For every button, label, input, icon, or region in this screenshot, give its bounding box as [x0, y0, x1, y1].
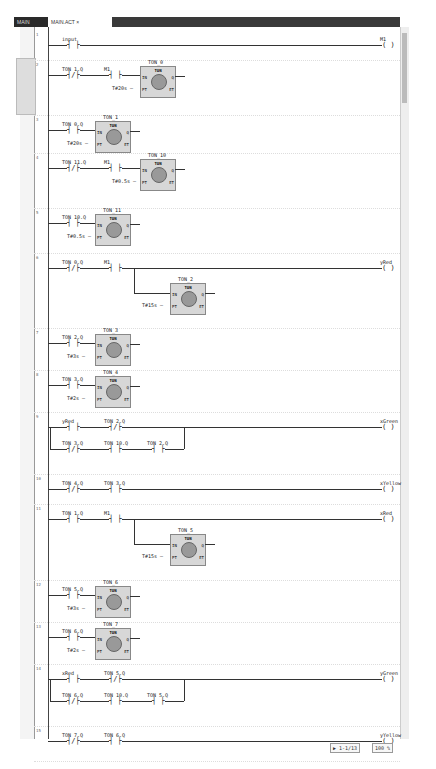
scrollbar-thumb[interactable] [402, 33, 407, 103]
coil-icon[interactable]: ( ) [382, 424, 395, 431]
coil-icon[interactable]: ( ) [382, 265, 395, 272]
fb-instance-name: TON_7 [103, 621, 118, 627]
pin-pt: PT [142, 180, 147, 185]
no-contact-icon[interactable]: ┤ ├ [67, 127, 80, 134]
fb-type: TON [96, 216, 130, 221]
rung[interactable]: 4TON_11.Q┤/├M1┤ ├TON_10TONINPTQETT#0.5s … [34, 153, 400, 209]
no-contact-icon[interactable]: ┤ ├ [67, 592, 80, 599]
zoom-level[interactable]: 100 % [372, 743, 393, 753]
coil-icon[interactable]: ( ) [382, 42, 395, 49]
branch-wire [184, 679, 185, 701]
ton-timer-block[interactable]: TONINPTQET [95, 214, 131, 246]
rung-number: 12 [36, 582, 41, 587]
branch-wire [184, 427, 185, 449]
no-contact-icon[interactable]: ┤ ├ [67, 676, 80, 683]
ton-timer-block[interactable]: TONINPTQET [140, 159, 176, 191]
ton-timer-block[interactable]: TONINPTQET [95, 121, 131, 153]
rung[interactable]: 14xRed┤ ├TON_5.Q┤/├yGreen( )TON_6.Q┤/├TO… [34, 664, 400, 727]
no-contact-icon[interactable]: ┤ ├ [109, 265, 122, 272]
q-wire [175, 169, 185, 170]
pin-in: IN [172, 543, 177, 548]
preset-time: T#0.5s — [112, 178, 136, 184]
pin-q: Q [172, 75, 174, 80]
rung[interactable]: 10TON_4.Q┤/├TON_3.Q┤ ├xYellow( ) [34, 474, 400, 505]
nc-contact-icon[interactable]: ┤/├ [67, 698, 80, 705]
pin-et: ET [169, 87, 174, 92]
no-contact-icon[interactable]: ┤ ├ [152, 446, 165, 453]
clock-icon [106, 594, 122, 610]
preset-time: T#15s — [142, 553, 163, 559]
rung[interactable]: 12TON_5.Q┤ ├TON_6TONINPTQETT#3s — [34, 580, 400, 623]
no-contact-icon[interactable]: ┤ ├ [109, 446, 122, 453]
tab-main-act[interactable]: MAIN.ACT × [48, 17, 112, 27]
pin-pt: PT [97, 355, 102, 360]
wire [48, 519, 384, 520]
cursor-position: ▶ 1-1/13 [330, 743, 360, 753]
pin-q: Q [127, 343, 129, 348]
rung[interactable]: 11TON_1.Q┤ ├M1┤ ├xRed( )TON_5TONINPTQETT… [34, 504, 400, 581]
rung[interactable]: 13TON_6.Q┤ ├TON_7TONINPTQETT#2s — [34, 622, 400, 665]
q-wire [130, 224, 140, 225]
pin-et: ET [124, 607, 129, 612]
no-contact-icon[interactable]: ┤ ├ [109, 72, 122, 79]
rung[interactable]: 6TON_0.Q┤/├M1┤ ├yRed( )TON_2TONINPTQETT#… [34, 253, 400, 329]
no-contact-icon[interactable]: ┤ ├ [67, 382, 80, 389]
no-contact-icon[interactable]: ┤ ├ [67, 424, 80, 431]
rung-number: 15 [36, 728, 41, 733]
nc-contact-icon[interactable]: ┤/├ [109, 424, 122, 431]
nc-contact-icon[interactable]: ┤/├ [67, 486, 80, 493]
no-contact-icon[interactable]: ┤ ├ [67, 634, 80, 641]
no-contact-icon[interactable]: ┤ ├ [109, 165, 122, 172]
fb-instance-name: TON_2 [178, 276, 193, 282]
wire [48, 268, 384, 269]
clock-icon [106, 129, 122, 145]
no-contact-icon[interactable]: ┤ ├ [67, 42, 80, 49]
rung-number: 6 [36, 255, 38, 260]
coil-icon[interactable]: ( ) [382, 486, 395, 493]
rung[interactable]: 9yRed┤ ├TON_2.Q┤/├xGreen( )TON_3.Q┤/├TON… [34, 412, 400, 475]
no-contact-icon[interactable]: ┤ ├ [109, 698, 122, 705]
branch-wire [134, 544, 170, 545]
vertical-scrollbar[interactable] [400, 27, 409, 739]
ton-timer-block[interactable]: TONINPTQET [170, 534, 206, 566]
nc-contact-icon[interactable]: ┤/├ [109, 676, 122, 683]
no-contact-icon[interactable]: ┤ ├ [67, 516, 80, 523]
ton-timer-block[interactable]: TONINPTQET [140, 66, 176, 98]
rung[interactable]: 7TON_2.Q┤ ├TON_3TONINPTQETT#3s — [34, 328, 400, 371]
rung[interactable]: 1input┤ ├M1( ) [34, 30, 400, 61]
pin-in: IN [142, 75, 147, 80]
nc-contact-icon[interactable]: ┤/├ [67, 265, 80, 272]
coil-icon[interactable]: ( ) [382, 676, 395, 683]
rung[interactable]: 3TON_0.Q┤ ├TON_1TONINPTQETT#20s — [34, 115, 400, 154]
preset-time: T#15s — [142, 302, 163, 308]
rung[interactable]: 2TON_1.Q┤/├M1┤ ├TON_0TONINPTQETT#20s — [34, 60, 400, 116]
ton-timer-block[interactable]: TONINPTQET [95, 628, 131, 660]
coil-icon[interactable]: ( ) [382, 516, 395, 523]
branch-wire [134, 519, 135, 544]
ton-timer-block[interactable]: TONINPTQET [170, 283, 206, 315]
nc-contact-icon[interactable]: ┤/├ [67, 165, 80, 172]
nc-contact-icon[interactable]: ┤/├ [67, 446, 80, 453]
no-contact-icon[interactable]: ┤ ├ [109, 738, 122, 745]
rung-number: 13 [36, 624, 41, 629]
ton-timer-block[interactable]: TONINPTQET [95, 334, 131, 366]
line-number-gutter [20, 27, 35, 739]
q-wire [130, 131, 140, 132]
nc-contact-icon[interactable]: ┤/├ [67, 72, 80, 79]
rung[interactable]: 5TON_10.Q┤ ├TON_11TONINPTQETT#0.5s — [34, 208, 400, 254]
fb-type: TON [171, 536, 205, 541]
tab-main[interactable]: MAIN [14, 17, 50, 27]
nc-contact-icon[interactable]: ┤/├ [67, 738, 80, 745]
fb-instance-name: TON_5 [178, 527, 193, 533]
no-contact-icon[interactable]: ┤ ├ [109, 486, 122, 493]
ton-timer-block[interactable]: TONINPTQET [95, 376, 131, 408]
preset-time: T#0.5s — [67, 233, 91, 239]
no-contact-icon[interactable]: ┤ ├ [67, 340, 80, 347]
no-contact-icon[interactable]: ┤ ├ [67, 220, 80, 227]
rung[interactable]: 8TON_3.Q┤ ├TON_4TONINPTQETT#2s — [34, 370, 400, 413]
pin-pt: PT [97, 607, 102, 612]
no-contact-icon[interactable]: ┤ ├ [109, 516, 122, 523]
preset-time: T#3s — [67, 353, 85, 359]
ton-timer-block[interactable]: TONINPTQET [95, 586, 131, 618]
no-contact-icon[interactable]: ┤ ├ [152, 698, 165, 705]
